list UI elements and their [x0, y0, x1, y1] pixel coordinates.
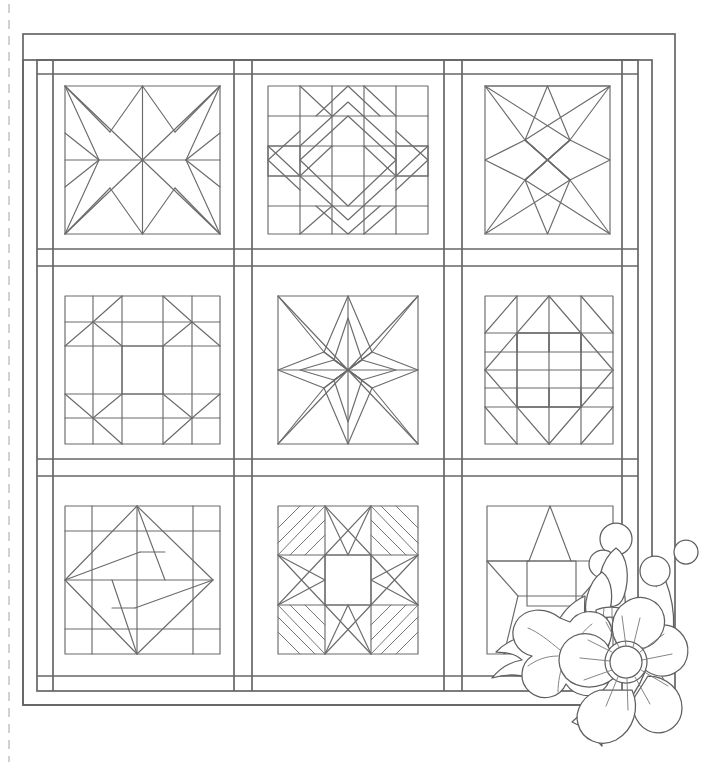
block-row1-col2-on-point-square-flying-geese: [268, 86, 428, 234]
block-row1-col3-lemoyne-star: [485, 86, 610, 234]
block-row2-col1-octagon-square-in-square: [65, 296, 220, 444]
block-row3-col2-striped-diamond-ohio-star: [278, 506, 418, 654]
block-row3-col1-pinwheel-in-diamond: [65, 506, 220, 654]
corner-floral-spray: [492, 523, 698, 746]
block-row2-col3-half-square-triangle-basket: [485, 296, 613, 444]
block-row1-col1-eight-pointed-pinwheel-star: [65, 86, 220, 234]
block-row2-col2-mariners-compass-star: [278, 296, 418, 444]
quilt-illustration: [0, 0, 724, 766]
coloring-page: Quilt Sampler Coloring Page Line-art col…: [0, 0, 724, 766]
